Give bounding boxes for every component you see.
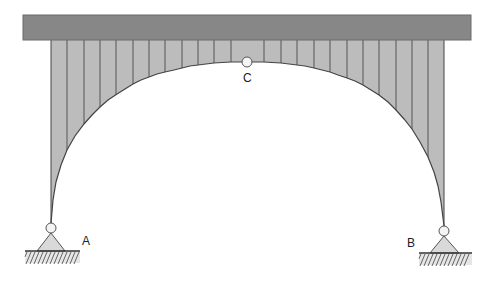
ground-hatch [419,253,472,266]
label-hinge-a: A [82,234,90,248]
supports [25,233,472,266]
support-triangle [430,236,459,253]
ground-hatch [25,251,80,264]
spandrel-infill [51,40,444,226]
pin-support-a [25,233,80,264]
arch-bridge-diagram: A B C [0,0,497,282]
label-hinge-c: C [243,71,252,85]
pin-support-b [419,236,472,266]
hinge-c-icon [242,57,252,67]
bridge-deck [23,15,471,40]
hinge-a-icon [46,223,56,233]
support-triangle [37,233,65,251]
label-hinge-b: B [407,236,415,250]
hinge-b-icon [439,226,449,236]
